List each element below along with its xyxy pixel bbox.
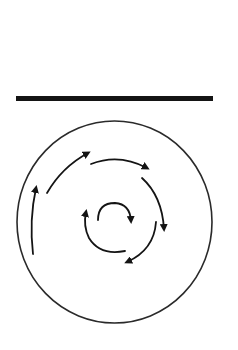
circulation-diagram [0,0,238,350]
arrow-outer-lower-right-icon [127,222,156,262]
arrow-outer-left-icon [32,188,36,254]
outer-circle [17,121,212,323]
arrow-outer-top-icon [91,159,147,168]
rotation-arrows [32,153,164,262]
arrow-outer-upper-left-icon [47,153,88,193]
arrow-outer-right-icon [142,178,164,229]
arrow-inner-left-icon [85,212,125,252]
arrow-inner-top-icon [98,203,131,221]
